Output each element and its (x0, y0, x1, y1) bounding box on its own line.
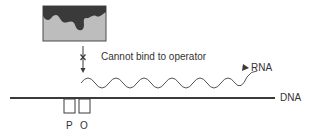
rna-strand (81, 64, 257, 88)
operator-box (79, 99, 90, 113)
blocked-arrow-icon (81, 46, 86, 73)
cannot-bind-label: Cannot bind to operator (101, 52, 206, 62)
rna-label: RNA (251, 63, 272, 73)
promoter-box (64, 99, 75, 113)
repressor-protein (43, 6, 106, 41)
dna-label: DNA (280, 93, 301, 103)
promoter-label: P (66, 121, 73, 131)
operator-label: O (80, 121, 88, 131)
